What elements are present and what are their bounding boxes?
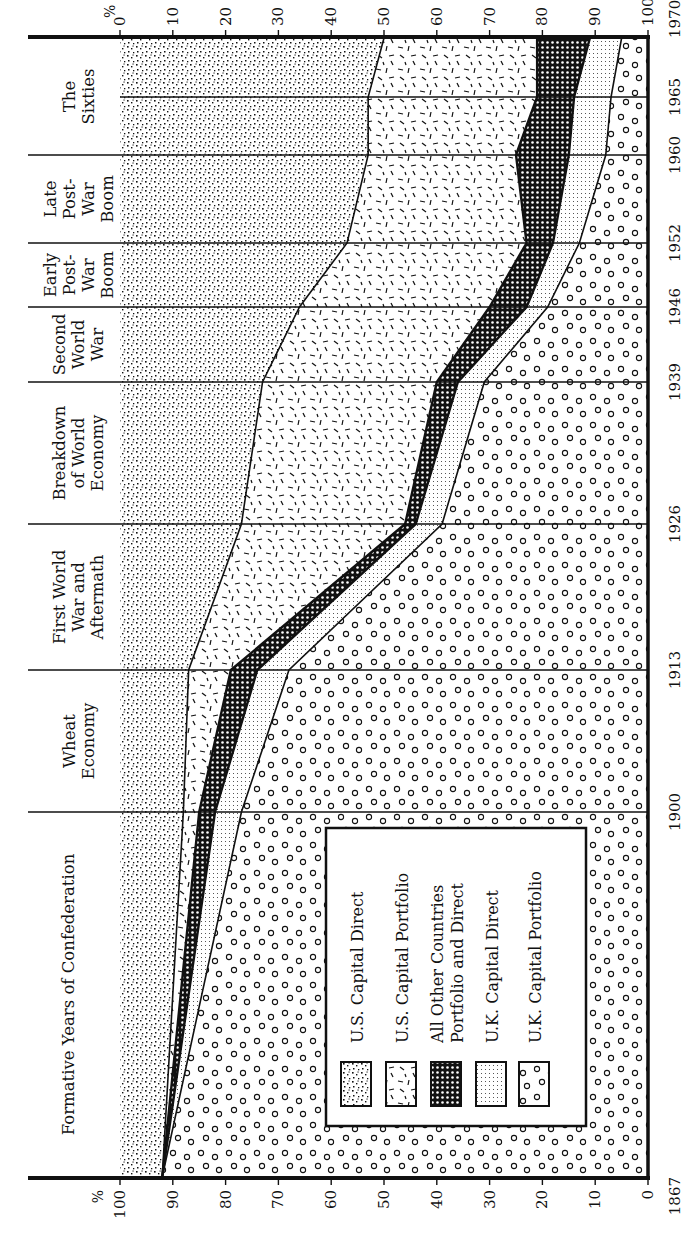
period-label: Aftermath xyxy=(88,554,107,640)
bottom-tick-label: 10 xyxy=(586,1190,604,1209)
period-label: Post- xyxy=(60,254,79,295)
bottom-tick-label: 60 xyxy=(322,1190,340,1209)
top-tick-label: 60 xyxy=(428,7,446,26)
period-label: War xyxy=(79,258,98,291)
period-label: Economy xyxy=(88,414,107,491)
bottom-tick-label: 90 xyxy=(164,1190,182,1209)
year-label: 1926 xyxy=(666,505,684,543)
bottom-tick-label: 100 xyxy=(111,1190,129,1219)
top-tick-label: 50 xyxy=(375,7,393,26)
year-label: 1867 xyxy=(666,1177,684,1215)
top-tick-label: 40 xyxy=(322,7,340,26)
period-label: of World xyxy=(69,417,88,488)
period-label: War and xyxy=(69,562,88,632)
period-label: The xyxy=(60,81,79,112)
period-label: Sixties xyxy=(79,68,98,124)
bottom-tick-label: 0 xyxy=(639,1190,657,1200)
period-label: Breakdown xyxy=(50,405,69,500)
period-label: War xyxy=(79,182,98,215)
legend-label: All Other Countries xyxy=(428,885,447,1044)
legend-swatch-fine-dots xyxy=(476,1062,506,1106)
top-tick-label: 70 xyxy=(481,7,499,26)
top-tick-label: 30 xyxy=(269,7,287,26)
period-label: Wheat xyxy=(60,714,79,768)
period-label: Formative Years of Confederation xyxy=(59,853,78,1135)
top-tick-label: 10 xyxy=(164,7,182,26)
period-label: Boom xyxy=(98,175,117,223)
legend-swatch-circles xyxy=(519,1062,549,1106)
legend-label: U.S. Capital Portfolio xyxy=(393,873,412,1043)
year-label: 1900 xyxy=(666,793,684,831)
canadian-foreign-capital-chart: 0102030405060708090100%10090807060504030… xyxy=(0,0,700,1241)
year-label: 1946 xyxy=(666,288,684,326)
bottom-tick-label: 50 xyxy=(375,1190,393,1209)
period-label: World xyxy=(69,319,88,369)
bottom-tick-label: 80 xyxy=(217,1190,235,1209)
top-tick-label: 90 xyxy=(586,7,604,26)
period-label: War xyxy=(88,328,107,361)
legend-label: U.K. Capital Direct xyxy=(483,889,502,1043)
year-label: 1913 xyxy=(666,651,684,689)
bottom-tick-label: 40 xyxy=(428,1190,446,1209)
top-tick-label: 100 xyxy=(639,0,657,26)
top-tick-label: 20 xyxy=(217,7,235,26)
year-label: 1970 xyxy=(666,0,684,38)
year-label: 1952 xyxy=(666,224,684,262)
legend-swatch-dashes xyxy=(386,1062,416,1106)
period-label: Economy xyxy=(79,702,98,779)
legend-label: U.S. Capital Direct xyxy=(348,891,367,1043)
period-label: First World xyxy=(50,549,69,644)
period-label: Late xyxy=(41,180,60,217)
legend-label: Portfolio and Direct xyxy=(448,882,467,1043)
bottom-percent-symbol: % xyxy=(90,1190,106,1203)
bottom-tick-label: 20 xyxy=(533,1190,551,1209)
chart-canvas: 0102030405060708090100%10090807060504030… xyxy=(0,0,700,1241)
top-tick-label: 80 xyxy=(533,7,551,26)
year-label: 1960 xyxy=(666,136,684,174)
top-percent-symbol: % xyxy=(102,5,118,18)
period-labels: Formative Years of ConfederationWheatEco… xyxy=(41,68,117,1135)
legend-label: U.K. Capital Portfolio xyxy=(526,871,545,1043)
legend-swatch-crosshatch xyxy=(431,1062,461,1106)
period-label: Early xyxy=(41,252,60,297)
period-label: Second xyxy=(50,313,69,375)
year-label: 1939 xyxy=(666,363,684,401)
year-label: 1965 xyxy=(666,78,684,116)
bottom-tick-label: 30 xyxy=(481,1190,499,1209)
period-label: Boom xyxy=(98,251,117,299)
period-label: Post- xyxy=(60,178,79,219)
bottom-tick-label: 70 xyxy=(269,1190,287,1209)
legend-swatch-dense-dots xyxy=(341,1062,371,1106)
legend: U.S. Capital DirectU.S. Capital Portfoli… xyxy=(326,828,586,1126)
